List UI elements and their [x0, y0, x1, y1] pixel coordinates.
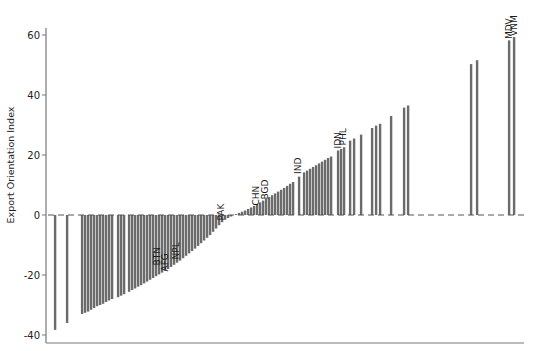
- bar: [149, 215, 151, 280]
- bar: [306, 171, 308, 215]
- bar: [152, 215, 154, 278]
- bar: [182, 215, 184, 258]
- bar: [120, 215, 122, 296]
- bar: [137, 215, 139, 287]
- bar: [96, 215, 98, 306]
- bar: [191, 215, 193, 251]
- bar: [292, 182, 294, 215]
- bar: [280, 190, 282, 215]
- bar: [324, 160, 326, 215]
- bar: [90, 215, 92, 310]
- y-axis-title: Export Orientation Index: [5, 106, 16, 223]
- y-axis-ticks: -40-200204060: [24, 30, 46, 341]
- bar: [102, 215, 104, 304]
- bar: [309, 169, 311, 215]
- bar: [470, 64, 472, 215]
- country-label-pak: PAK: [216, 202, 226, 220]
- country-label-ind: IND: [293, 158, 303, 174]
- bar: [349, 141, 351, 215]
- y-tick-label: 0: [34, 210, 40, 221]
- bar: [375, 126, 377, 215]
- bar: [298, 177, 300, 215]
- bar: [108, 215, 110, 301]
- bar: [111, 215, 113, 299]
- bar: [203, 215, 205, 241]
- bar-series: [54, 37, 515, 330]
- bar: [390, 116, 392, 215]
- bar: [513, 37, 515, 215]
- bar: [212, 215, 214, 232]
- bar: [360, 135, 362, 215]
- bar: [155, 215, 157, 276]
- bar: [508, 40, 510, 215]
- bar: [318, 163, 320, 215]
- bar: [140, 215, 142, 285]
- bar: [312, 167, 314, 215]
- y-tick-label: -20: [24, 270, 40, 281]
- bar: [84, 215, 86, 313]
- bar: [209, 215, 211, 235]
- bar: [117, 215, 119, 297]
- bar: [54, 215, 56, 330]
- bar: [337, 151, 339, 216]
- bar: [185, 215, 187, 256]
- bar: [353, 139, 355, 216]
- bar: [81, 215, 83, 314]
- bar: [200, 215, 202, 243]
- bar: [99, 215, 101, 305]
- bar: [128, 215, 130, 292]
- country-label-npl: NPL: [171, 242, 181, 259]
- bar: [197, 215, 199, 246]
- bar: [250, 208, 252, 216]
- y-tick-label: 40: [27, 90, 40, 101]
- country-label-phl: PHL: [338, 128, 348, 145]
- bar: [289, 184, 291, 215]
- bar: [265, 199, 267, 215]
- bar: [379, 124, 381, 215]
- country-label-afg: AFG: [160, 253, 170, 271]
- bar: [188, 215, 190, 253]
- bar: [235, 214, 237, 215]
- bar: [271, 195, 273, 215]
- bar: [206, 215, 208, 238]
- country-label-vnm: VNM: [509, 15, 519, 36]
- bar: [371, 128, 373, 215]
- bar: [146, 215, 148, 282]
- bar: [315, 165, 317, 215]
- bar: [283, 188, 285, 215]
- bar: [303, 172, 305, 215]
- bar: [123, 215, 125, 294]
- y-tick-label: 60: [27, 30, 40, 41]
- bar: [286, 186, 288, 215]
- bar: [277, 192, 279, 215]
- bar: [87, 215, 89, 312]
- bar: [66, 215, 68, 323]
- bar: [321, 162, 323, 215]
- bar: [194, 215, 196, 249]
- bar: [93, 215, 95, 308]
- bar: [330, 157, 332, 216]
- bar: [244, 211, 246, 216]
- bar: [247, 209, 249, 215]
- y-tick-label: -40: [24, 330, 40, 341]
- bar: [131, 215, 133, 290]
- bar: [327, 158, 329, 215]
- bar: [143, 215, 145, 283]
- country-label-bgd: BGD: [260, 180, 270, 200]
- bar: [403, 108, 405, 215]
- bar: [407, 106, 409, 216]
- bar: [253, 206, 255, 215]
- y-tick-label: 20: [27, 150, 40, 161]
- bar: [340, 149, 342, 215]
- bar: [274, 193, 276, 215]
- bar: [105, 215, 107, 302]
- bar: [343, 147, 345, 215]
- bar: [134, 215, 136, 289]
- bar: [476, 60, 478, 215]
- bar: [262, 201, 264, 215]
- export-orientation-chart: -40-200204060 Export Orientation Index B…: [0, 0, 534, 351]
